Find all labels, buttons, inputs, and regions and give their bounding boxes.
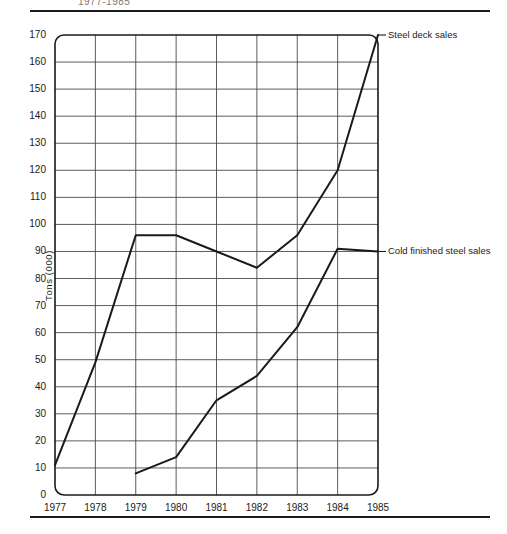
y-tick-label: 50 [14,354,46,365]
y-tick-label: 70 [14,300,46,311]
x-tick-label: 1980 [153,502,199,513]
y-tick-label: 20 [14,435,46,446]
x-tick-label: 1977 [32,502,78,513]
y-tick-label: 40 [14,381,46,392]
label-leader-lines [378,35,386,251]
y-tick-label: 160 [14,56,46,67]
y-tick-label: 130 [14,137,46,148]
y-tick-label: 10 [14,462,46,473]
chart-canvas [0,0,507,534]
y-tick-label: 140 [14,110,46,121]
x-tick-label: 1985 [355,502,401,513]
chart-page: 1977-1985 Tons (000) 0102030405060708090… [0,0,507,534]
series-label-1: Cold finished steel sales [388,245,490,256]
x-tick-label: 1981 [194,502,240,513]
y-tick-label: 90 [14,245,46,256]
y-tick-label: 100 [14,218,46,229]
y-tick-label: 170 [14,29,46,40]
line-chart: Tons (000) 01020304050607080901001101201… [0,0,507,534]
y-tick-label: 60 [14,327,46,338]
y-tick-label: 110 [14,191,46,202]
x-tick-label: 1983 [274,502,320,513]
x-tick-label: 1984 [315,502,361,513]
x-tick-label: 1982 [234,502,280,513]
x-tick-label: 1978 [72,502,118,513]
y-tick-label: 150 [14,83,46,94]
y-tick-label: 80 [14,273,46,284]
x-tick-label: 1979 [113,502,159,513]
y-tick-label: 30 [14,408,46,419]
series-label-0: Steel deck sales [388,29,457,40]
y-tick-label: 120 [14,164,46,175]
y-tick-label: 0 [14,489,46,500]
